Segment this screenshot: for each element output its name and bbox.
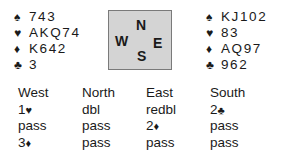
auction-row: pass pass 2♦ pass — [18, 118, 274, 135]
bid-level: 1 — [18, 102, 26, 117]
heart-icon: ♥ — [26, 104, 33, 116]
compass-west: W — [115, 33, 128, 49]
east-clubs-row: ♣ 962 — [206, 57, 267, 73]
bid-cell: 2♦ — [146, 118, 210, 133]
bid-call: pass — [82, 135, 111, 150]
west-spades-cards: 743 — [29, 9, 56, 25]
diamond-icon: ♦ — [26, 137, 32, 149]
bid-cell: pass — [18, 118, 82, 133]
compass-box: N W E S — [108, 10, 172, 70]
bid-cell: 1♥ — [18, 102, 82, 117]
heart-icon: ♥ — [14, 25, 29, 41]
west-hearts-cards: AKQ74 — [29, 25, 81, 41]
east-diamonds-cards: AQ97 — [221, 41, 262, 57]
bid-call: pass — [82, 118, 111, 133]
bid-level: 3 — [18, 135, 26, 150]
west-clubs-cards: 3 — [29, 57, 38, 73]
bid-cell: pass — [82, 118, 146, 133]
auction-row: 1♥ dbl redbl 2♣ — [18, 101, 274, 118]
east-spades-row: ♠ KJ102 — [206, 9, 267, 25]
auction-header-row: West North East South — [18, 84, 274, 101]
diamond-icon: ♦ — [14, 41, 29, 57]
spade-icon: ♠ — [206, 9, 221, 25]
header-south: South — [210, 85, 274, 100]
east-spades-cards: KJ102 — [221, 9, 267, 25]
header-north: North — [82, 85, 146, 100]
heart-icon: ♥ — [206, 25, 221, 41]
bid-cell: redbl — [146, 102, 210, 117]
bid-call: pass — [18, 118, 47, 133]
diamond-icon: ♦ — [206, 41, 221, 57]
bid-call: pass — [210, 135, 239, 150]
west-diamonds-row: ♦ K642 — [14, 41, 81, 57]
east-hearts-row: ♥ 83 — [206, 25, 267, 41]
east-clubs-cards: 962 — [221, 57, 248, 73]
west-clubs-row: ♣ 3 — [14, 57, 81, 73]
east-diamonds-row: ♦ AQ97 — [206, 41, 267, 57]
header-east: East — [146, 85, 210, 100]
west-hand: ♠ 743 ♥ AKQ74 ♦ K642 ♣ 3 — [14, 9, 81, 73]
bid-call: dbl — [82, 102, 100, 117]
club-icon: ♣ — [14, 57, 29, 73]
compass-north: N — [136, 17, 146, 33]
bid-cell: 3♦ — [18, 135, 82, 150]
auction-row: 3♦ pass pass pass — [18, 134, 274, 151]
bid-call: redbl — [146, 102, 176, 117]
bid-level: 2 — [146, 118, 154, 133]
bid-cell: pass — [210, 135, 274, 150]
bid-level: 2 — [210, 102, 218, 117]
club-icon: ♣ — [218, 104, 225, 116]
bid-call: pass — [146, 135, 175, 150]
west-spades-row: ♠ 743 — [14, 9, 81, 25]
compass-east: E — [153, 35, 162, 51]
bid-cell: 2♣ — [210, 102, 274, 117]
east-hand: ♠ KJ102 ♥ 83 ♦ AQ97 ♣ 962 — [206, 9, 267, 73]
auction-table: West North East South 1♥ dbl redbl 2♣ pa… — [18, 84, 274, 151]
bid-cell: pass — [146, 135, 210, 150]
west-hearts-row: ♥ AKQ74 — [14, 25, 81, 41]
diamond-icon: ♦ — [154, 120, 160, 132]
west-diamonds-cards: K642 — [29, 41, 67, 57]
club-icon: ♣ — [206, 57, 221, 73]
bid-call: pass — [210, 118, 239, 133]
bid-cell: pass — [210, 118, 274, 133]
bid-cell: pass — [82, 135, 146, 150]
compass-south: S — [137, 48, 146, 64]
header-west: West — [18, 85, 82, 100]
bid-cell: dbl — [82, 102, 146, 117]
spade-icon: ♠ — [14, 9, 29, 25]
east-hearts-cards: 83 — [221, 25, 239, 41]
